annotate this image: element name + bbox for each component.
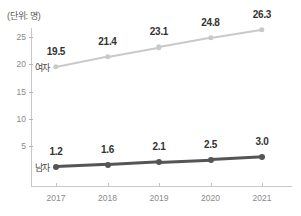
x-tick-mark <box>262 183 263 187</box>
data-point <box>105 54 110 59</box>
x-tick-mark <box>108 183 109 187</box>
data-point <box>105 162 111 168</box>
series-label-male: 남자 <box>20 160 50 173</box>
x-tick-label: 2017 <box>36 193 76 203</box>
data-point-label: 1.6 <box>88 144 128 155</box>
data-point-label: 3.0 <box>242 136 282 147</box>
x-tick-label: 2021 <box>242 193 282 203</box>
series-line-segment <box>159 158 211 163</box>
y-tick-label: 5 <box>10 141 26 151</box>
series-line-segment <box>56 56 108 68</box>
y-tick-mark <box>29 119 33 120</box>
series-label-female: 여자 <box>20 60 50 73</box>
data-point-label: 21.4 <box>88 36 128 47</box>
data-point-label: 2.5 <box>191 139 231 150</box>
series-line-segment <box>56 163 108 168</box>
y-tick-label: 25 <box>10 32 26 42</box>
series-line-segment <box>107 160 159 165</box>
data-point <box>53 64 58 69</box>
data-point <box>208 157 214 163</box>
y-tick-mark <box>29 146 33 147</box>
x-tick-label: 2020 <box>191 193 231 203</box>
unit-label: (단위: 명) <box>7 9 41 22</box>
data-point <box>53 164 59 170</box>
line-chart: (단위: 명) 510152025 20172018201920202021 1… <box>0 0 301 216</box>
series-line-segment <box>159 37 211 48</box>
data-point-label: 24.8 <box>191 17 231 28</box>
data-point-label: 23.1 <box>139 26 179 37</box>
x-tick-label: 2018 <box>88 193 128 203</box>
data-point <box>208 35 213 40</box>
data-point <box>156 159 162 165</box>
x-tick-mark <box>159 183 160 187</box>
series-line-segment <box>210 156 262 161</box>
data-point <box>259 27 264 32</box>
x-axis-line <box>31 186 292 187</box>
data-point <box>156 45 161 50</box>
data-point-label: 19.5 <box>36 46 76 57</box>
y-tick-label: 15 <box>10 87 26 97</box>
y-tick-mark <box>29 37 33 38</box>
data-point-label: 2.1 <box>139 141 179 152</box>
series-line-segment <box>107 46 159 57</box>
x-tick-mark <box>211 183 212 187</box>
data-point <box>259 154 265 160</box>
y-tick-mark <box>29 92 33 93</box>
data-point-label: 1.2 <box>36 146 76 157</box>
series-line-segment <box>210 29 262 39</box>
data-point-label: 26.3 <box>242 9 282 20</box>
y-tick-label: 10 <box>10 114 26 124</box>
x-tick-label: 2019 <box>139 193 179 203</box>
x-tick-mark <box>56 183 57 187</box>
